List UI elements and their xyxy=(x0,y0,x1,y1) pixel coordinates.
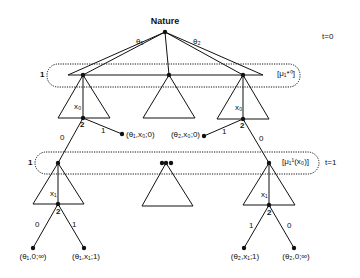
theta2-branch-label: θ₂ xyxy=(193,38,201,46)
info-set-level1-player: 1 xyxy=(40,71,44,79)
branch1-right-level1: 1 xyxy=(222,128,226,136)
action-x0-right: x₀ xyxy=(235,104,242,112)
action-x1-left: x₁ xyxy=(50,190,57,198)
info-set-level2 xyxy=(35,152,319,174)
node-level1-middle xyxy=(167,73,171,77)
branch0-left-level2: 0 xyxy=(35,221,39,229)
nature-node xyxy=(163,30,167,34)
game-tree-diagram: Nature t=0 θ₁ θ₂ 1 [μ₁*⁰] x₀ 2 0 1 (θ₁,x… xyxy=(0,0,360,278)
node-level1-right xyxy=(241,73,245,77)
branch0-right-level2: 0 xyxy=(287,222,291,230)
time-label-t1: t=1 xyxy=(325,159,336,167)
branch1-right-level2: 1 xyxy=(249,222,253,230)
nature-label: Nature xyxy=(151,17,180,26)
branch1-left-level2: 1 xyxy=(72,221,76,229)
player2-left-level2: 2 xyxy=(56,208,60,216)
action-x1-right: x₁ xyxy=(261,191,268,199)
player2-right-level2: 2 xyxy=(267,209,271,217)
terminal-theta1-x0: (θ₁,x₀;0) xyxy=(126,131,155,139)
node-level1-left xyxy=(81,73,85,77)
branch0-left-level1: 0 xyxy=(60,134,64,142)
branch1-left-level1: 1 xyxy=(101,127,105,135)
info-set-level1-belief: [μ₁*⁰] xyxy=(277,70,295,78)
terminal-theta2-0: (θ₂,0;∞) xyxy=(282,253,309,261)
tree-edges xyxy=(0,0,360,278)
info-set-level2-player: 1 xyxy=(28,159,32,167)
action-x0-left: x₀ xyxy=(74,103,81,111)
terminal-theta1-0: (θ₁,0;∞) xyxy=(19,253,46,261)
terminal-theta2-x1: (θ₂,x₁;1) xyxy=(231,253,259,261)
info-set-level2-belief: [μ₁¹(x₀)] xyxy=(282,158,309,166)
terminal-theta2-x0: (θ₂,x₀;0) xyxy=(171,131,200,139)
player2-left-level1: 2 xyxy=(80,121,84,129)
time-label-t0: t=0 xyxy=(322,33,333,41)
theta1-branch-label: θ₁ xyxy=(136,38,143,46)
terminal-theta1-x1: (θ₁,x₁;1) xyxy=(72,253,100,261)
branch0-right-level1: 0 xyxy=(259,135,263,143)
player2-right-level1: 2 xyxy=(240,122,244,130)
